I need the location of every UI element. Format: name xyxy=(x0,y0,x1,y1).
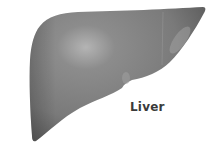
liver-label: Liver xyxy=(130,100,165,114)
liver-illustration: Liver xyxy=(0,0,212,155)
liver-organ-image xyxy=(0,0,212,155)
